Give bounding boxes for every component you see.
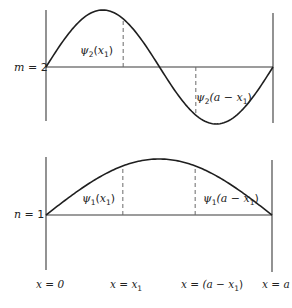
x-label-x1: x = x1 [110, 278, 142, 293]
mode-label-n: n = 1 [14, 208, 44, 221]
x-axis-labels: x = 0 x = x1 x = (a − x1) x = a [36, 278, 290, 293]
mode-label-m: m = 2 [14, 61, 48, 74]
wavefunction-diagram: m = 2 ψ2(x1) ψ2(a − x1) n = 1 ψ1(x1) [0, 0, 292, 308]
psi-1-x1-label: ψ1(x1) [82, 192, 115, 207]
panel-n1: n = 1 ψ1(x1) ψ1(a − x1) [14, 157, 272, 272]
x-label-a: x = a [262, 278, 290, 290]
x-label-0: x = 0 [36, 278, 64, 290]
panel-m2: m = 2 ψ2(x1) ψ2(a − x1) [14, 10, 273, 124]
psi-2-x1-label: ψ2(x1) [80, 44, 113, 59]
psi-1-a-minus-x1-label: ψ1(a − x1) [203, 192, 259, 207]
x-label-a-minus-x1: x = (a − x1) [181, 278, 243, 293]
psi-2-a-minus-x1-label: ψ2(a − x1) [196, 91, 252, 106]
psi-1-curve [46, 159, 272, 215]
